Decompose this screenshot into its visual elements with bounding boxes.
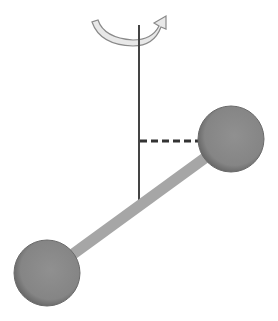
dumbbell-rotation-diagram <box>0 0 278 321</box>
lower-mass <box>14 240 80 306</box>
upper-mass <box>198 106 264 172</box>
rotation-arrow-icon <box>92 16 166 46</box>
